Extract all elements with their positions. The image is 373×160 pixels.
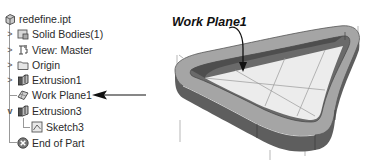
tree-item-extrusion1[interactable]: > Extrusion1 — [0, 72, 82, 87]
chevron-right-icon[interactable]: > — [6, 45, 14, 55]
tree-item-view-master[interactable]: > View: Master — [0, 42, 93, 57]
tree-item-origin[interactable]: > Origin — [0, 57, 60, 72]
tree-label: Extrusion3 — [32, 105, 82, 117]
tree-label: Origin — [32, 59, 60, 71]
tree-root-part[interactable]: redefine.ipt — [4, 11, 71, 26]
solid-bodies-icon — [17, 28, 29, 40]
model-viewport[interactable] — [165, 20, 373, 160]
tree-label: Solid Bodies(1) — [32, 28, 103, 40]
tree-label: End of Part — [32, 137, 85, 149]
model-browser-tree: redefine.ipt > Solid Bodies(1) > View: M… — [0, 0, 150, 160]
tree-label: Sketch3 — [46, 121, 84, 133]
part-icon — [4, 13, 16, 25]
chevron-right-icon[interactable]: > — [6, 60, 14, 70]
extrusion-icon — [17, 74, 29, 86]
tree-label: Extrusion1 — [32, 74, 82, 86]
tree-label: Work Plane1 — [32, 89, 92, 101]
tree-item-extrusion3[interactable]: v Extrusion3 — [0, 103, 82, 118]
tree-connector — [9, 142, 17, 143]
chevron-right-icon[interactable]: > — [6, 75, 14, 85]
tree-item-work-plane1[interactable]: Work Plane1 — [17, 87, 92, 102]
tree-connector — [9, 95, 17, 96]
sketch-icon — [31, 121, 43, 133]
pointer-arrow-icon — [90, 88, 150, 102]
end-of-part-icon — [17, 137, 29, 149]
chevron-right-icon[interactable]: > — [6, 29, 14, 39]
folder-icon — [17, 59, 29, 71]
tree-connector — [23, 118, 24, 127]
tree-item-solid-bodies[interactable]: > Solid Bodies(1) — [0, 26, 103, 41]
tree-label: redefine.ipt — [19, 13, 71, 25]
tree-item-end-of-part[interactable]: End of Part — [17, 135, 85, 150]
work-plane-icon — [17, 89, 29, 101]
extrusion-icon — [17, 105, 29, 117]
tree-connector — [23, 127, 30, 128]
view-icon — [17, 44, 29, 56]
chevron-down-icon[interactable]: v — [6, 106, 14, 116]
tree-item-sketch3[interactable]: Sketch3 — [31, 119, 84, 134]
tree-label: View: Master — [32, 44, 93, 56]
